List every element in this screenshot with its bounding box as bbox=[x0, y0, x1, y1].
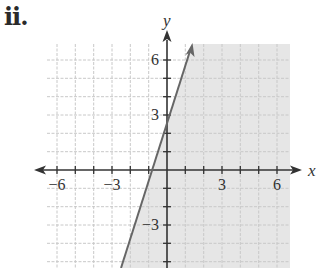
coordinate-graph: −6 −3 3 6 x 6 3 −3 y bbox=[0, 0, 328, 268]
x-tick-label: −6 bbox=[48, 176, 65, 193]
x-axis-label: x bbox=[307, 161, 316, 180]
x-tick-label: 3 bbox=[218, 176, 226, 193]
y-tick-label: −3 bbox=[142, 216, 159, 233]
y-tick-label: 6 bbox=[151, 51, 159, 68]
y-tick-label: 3 bbox=[151, 106, 159, 123]
y-axis: 6 3 −3 y bbox=[142, 11, 172, 268]
shaded-region bbox=[121, 44, 290, 268]
x-tick-label: −3 bbox=[103, 176, 120, 193]
x-tick-label: 6 bbox=[273, 176, 281, 193]
y-axis-label: y bbox=[161, 11, 171, 30]
